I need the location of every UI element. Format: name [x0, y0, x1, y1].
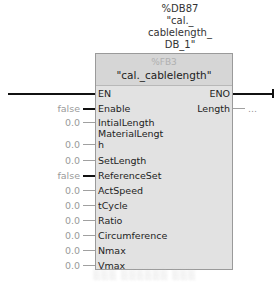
wire-setlength [83, 160, 95, 161]
value-nmax[interactable]: 0.0 [40, 245, 80, 256]
value-enable[interactable]: false [40, 103, 80, 114]
block-header: %FB3 "cal._cablelength" [96, 54, 232, 86]
pin-ratio[interactable]: Ratio [98, 215, 122, 226]
pin-initiallength[interactable]: IntialLength [98, 117, 154, 128]
pin-enable[interactable]: Enable [98, 103, 130, 114]
value-setlength[interactable]: 0.0 [40, 155, 80, 166]
wire-nmax [83, 250, 95, 251]
wire-tcycle [83, 205, 95, 206]
wire-length [233, 108, 245, 109]
instance-db-name-2: cablelength_ [130, 27, 230, 39]
pin-length[interactable]: Length [197, 103, 230, 114]
instance-db-name-1: "cal._ [130, 15, 230, 27]
value-length[interactable]: ... [248, 103, 268, 114]
value-referenceset[interactable]: false [40, 170, 80, 181]
wire-referenceset [83, 175, 95, 177]
pin-setlength[interactable]: SetLength [98, 155, 146, 166]
block-name: "cal._cablelength" [96, 69, 232, 81]
pin-circumference[interactable]: Circumference [98, 230, 167, 241]
wire-initiallength [83, 122, 95, 123]
value-circumference[interactable]: 0.0 [40, 230, 80, 241]
instance-db-name-3: DB_1" [130, 39, 230, 51]
pin-referenceset[interactable]: ReferenceSet [98, 170, 161, 181]
value-initiallength[interactable]: 0.0 [40, 117, 80, 128]
wire-actspeed [83, 190, 95, 191]
wire-materiallength [83, 144, 95, 145]
value-ratio[interactable]: 0.0 [40, 215, 80, 226]
eno-wire [233, 93, 273, 95]
value-tcycle[interactable]: 0.0 [40, 200, 80, 211]
pin-materiallength-line2[interactable]: h [98, 139, 104, 150]
block-number: %FB3 [96, 57, 232, 67]
caption: ░░░ ░░░░░░ ░░░ [60, 270, 230, 280]
pin-nmax[interactable]: Nmax [98, 245, 126, 256]
wire-vmax [83, 265, 95, 266]
en-wire [8, 93, 95, 95]
instance-db-label: %DB87 "cal._ cablelength_ DB_1" [130, 3, 230, 51]
instance-db-address: %DB87 [130, 3, 230, 15]
value-materiallength[interactable]: 0.0 [40, 139, 80, 150]
pin-en[interactable]: EN [98, 88, 111, 99]
pin-materiallength-line1[interactable]: MaterialLengt [98, 128, 163, 139]
eno-wire-end [272, 89, 274, 98]
pin-tcycle[interactable]: tCycle [98, 200, 128, 211]
pin-actspeed[interactable]: ActSpeed [98, 185, 143, 196]
pin-eno[interactable]: ENO [209, 88, 230, 99]
value-actspeed[interactable]: 0.0 [40, 185, 80, 196]
wire-enable [83, 108, 95, 110]
wire-circumference [83, 235, 95, 236]
wire-ratio [83, 220, 95, 221]
